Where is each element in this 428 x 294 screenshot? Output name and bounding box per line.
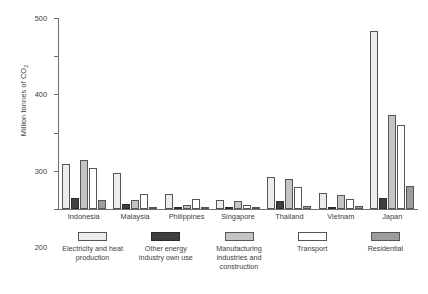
bar [243,205,251,209]
legend-item[interactable]: Other energy industry own use [129,232,202,262]
bar [285,179,293,209]
legend-swatch [78,232,107,241]
legend-swatch [371,232,400,241]
bar [140,194,148,209]
y-axis-title: Million tonnes of CO2 [19,26,28,176]
bar [370,31,378,209]
bar-group [315,18,366,209]
y-axis-tick-label: 500 [35,14,47,23]
bar [388,115,396,209]
bar [337,195,345,209]
legend-swatch [298,232,327,241]
x-axis-label-indonesia: Indonesia [58,212,109,221]
bar-group [264,18,315,209]
bar-group [161,18,212,209]
bar [80,160,88,209]
bar [201,207,209,209]
bar [113,173,121,209]
bar [397,125,405,209]
bar [122,204,130,209]
bar-groups [58,18,418,209]
x-axis-label-philippines: Philippines [161,212,212,221]
legend-swatch [151,232,180,241]
legend-item[interactable]: Residential [349,232,422,253]
y-axis-title-text: Million tonnes of CO [19,68,28,137]
bar [303,206,311,209]
bar [192,199,200,209]
bar [379,198,387,209]
bar [174,207,182,209]
bar [131,200,139,209]
bar [216,200,224,209]
x-axis-label-malaysia: Malaysia [109,212,160,221]
bar [319,193,327,209]
bar [252,207,260,209]
y-axis-tick-label: 300 [35,166,47,175]
legend-item[interactable]: Transport [276,232,349,253]
chart-figure: Million tonnes of CO2 0100200300400500 I… [0,0,428,294]
bar [149,207,157,209]
bar [71,198,79,209]
bar [276,201,284,209]
x-axis-label-vietnam: Vietnam [315,212,366,221]
bar [225,207,233,209]
plot-area: 0100200300400500 [58,18,418,210]
y-axis-tick: 0 [54,209,58,210]
bar-group [367,18,418,209]
y-axis-title-subscript: 2 [22,65,28,68]
legend-label: Transport [297,244,328,253]
bar [183,205,191,209]
chart-legend: Electricity and heat productionOther ene… [56,232,422,271]
bar [346,199,354,209]
bar [406,186,414,209]
y-axis-tick-label: 400 [35,90,47,99]
y-axis-tick-label: 200 [35,243,47,252]
bar-group [212,18,263,209]
x-axis-label-singapore: Singapore [212,212,263,221]
legend-label: Residential [368,244,404,253]
bar [234,201,242,209]
bar [165,194,173,209]
bar [267,177,275,209]
bar [328,207,336,209]
x-axis-label-thailand: Thailand [264,212,315,221]
bar-group [109,18,160,209]
x-axis-label-japan: Japan [367,212,418,221]
legend-item[interactable]: Manufacturing industries and constructio… [202,232,275,271]
legend-label: Other energy industry own use [133,244,199,262]
bar-group [58,18,109,209]
legend-label: Manufacturing industries and constructio… [206,244,272,271]
legend-swatch [225,232,254,241]
bar [355,206,363,209]
legend-item[interactable]: Electricity and heat production [56,232,129,262]
bar [294,187,302,209]
bar [89,168,97,209]
x-axis-labels: IndonesiaMalaysiaPhilippinesSingaporeTha… [58,212,418,221]
bar [98,200,106,209]
x-axis-line [58,209,418,210]
legend-label: Electricity and heat production [60,244,126,262]
bar [62,164,70,209]
